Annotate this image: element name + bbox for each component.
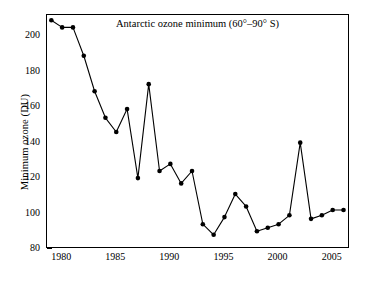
data-point <box>92 89 97 94</box>
y-tick-label: 140 <box>6 137 40 147</box>
data-point <box>320 213 325 218</box>
data-point <box>49 18 54 23</box>
data-point <box>309 217 314 222</box>
data-point <box>330 208 335 213</box>
y-tick-label: 160 <box>6 101 40 111</box>
data-point <box>341 208 346 213</box>
x-tick-label: 2000 <box>258 252 298 262</box>
x-tick-label: 1985 <box>95 252 135 262</box>
data-point <box>201 222 206 227</box>
data-point <box>146 82 151 87</box>
data-point <box>244 204 249 209</box>
ozone-line-series <box>51 20 343 235</box>
data-point <box>157 169 162 174</box>
data-point <box>60 25 65 30</box>
data-point <box>190 169 195 174</box>
x-tick-label: 2005 <box>312 252 352 262</box>
data-point <box>276 222 281 227</box>
data-point <box>233 192 238 197</box>
data-point <box>298 140 303 145</box>
data-point <box>255 229 260 234</box>
y-tick-label: 180 <box>6 66 40 76</box>
data-point <box>179 181 184 186</box>
data-point <box>125 107 130 112</box>
data-point <box>287 213 292 218</box>
x-tick-label: 1995 <box>203 252 243 262</box>
data-point <box>103 116 108 121</box>
y-tick-label: 80 <box>6 243 40 253</box>
ozone-data-markers <box>49 18 346 237</box>
y-tick-label: 120 <box>6 172 40 182</box>
x-tick-label: 1990 <box>149 252 189 262</box>
y-tick-label: 100 <box>6 208 40 218</box>
plot-frame <box>46 14 349 248</box>
data-point <box>265 225 270 230</box>
x-tick-label: 1980 <box>41 252 81 262</box>
ozone-chart-figure: Minimum ozone (DU) 80100120140160180200 … <box>0 0 366 284</box>
data-point <box>168 162 173 167</box>
data-point <box>211 233 216 238</box>
data-point <box>81 53 86 58</box>
y-tick-label: 200 <box>6 30 40 40</box>
data-point <box>136 176 141 181</box>
data-point <box>71 25 76 30</box>
data-series-plot <box>47 15 350 249</box>
data-point <box>222 215 227 220</box>
data-point <box>114 130 119 135</box>
